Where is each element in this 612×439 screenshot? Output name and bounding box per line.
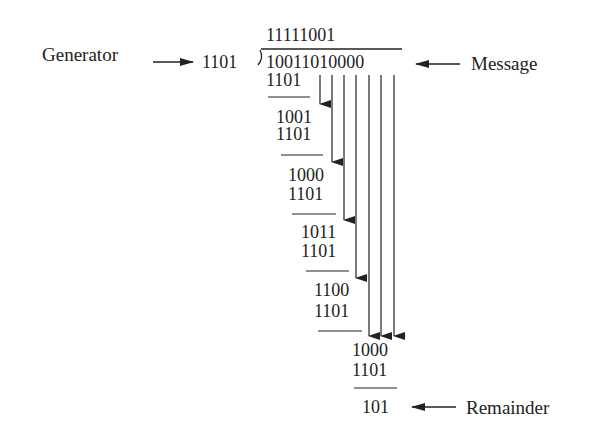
- division-bracket-icon: [258, 49, 402, 65]
- diagram-lines: [0, 0, 612, 439]
- bring-down-arrows: [320, 75, 394, 336]
